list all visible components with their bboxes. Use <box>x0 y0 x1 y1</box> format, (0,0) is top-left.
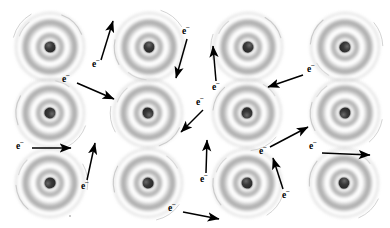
electron-label: e− <box>282 191 290 201</box>
electron-motion-arrow <box>273 158 283 189</box>
electron-label: e− <box>168 204 176 214</box>
electron-charge-sign: − <box>20 139 24 147</box>
electron-motion-arrow <box>77 83 114 99</box>
electron-label: e− <box>92 60 100 70</box>
electron-motion-arrow <box>176 39 187 78</box>
electron-label: e− <box>196 98 204 108</box>
electron-motion-arrow <box>101 21 113 60</box>
electron-label: e− <box>81 182 89 192</box>
electron-label: e− <box>16 142 24 152</box>
electron-charge-sign: − <box>313 139 317 147</box>
stray-speck <box>69 215 71 217</box>
electron-label: e− <box>212 83 220 93</box>
electron-sea-diagram: e−e−e−e−e−e−e−e−e−e−e−e−e− <box>0 0 390 228</box>
electron-motion-arrow <box>183 212 219 219</box>
electron-motion-arrow <box>322 153 370 155</box>
electron-charge-sign: − <box>311 62 315 70</box>
electron-charge-sign: − <box>200 95 204 103</box>
electron-label: e− <box>200 175 208 185</box>
electron-charge-sign: − <box>286 188 290 196</box>
electron-motion-arrow <box>270 127 308 147</box>
electron-motion-arrow <box>268 75 303 87</box>
electron-motion-arrows <box>0 0 390 228</box>
electron-charge-sign: − <box>204 172 208 180</box>
electron-charge-sign: − <box>66 72 70 80</box>
electron-charge-sign: − <box>216 80 220 88</box>
electron-charge-sign: − <box>186 24 190 32</box>
electron-label: e− <box>62 75 70 85</box>
electron-motion-arrow <box>206 140 207 173</box>
electron-motion-arrow <box>181 110 203 132</box>
electron-label: e− <box>309 142 317 152</box>
electron-charge-sign: − <box>263 144 267 152</box>
electron-charge-sign: − <box>85 179 89 187</box>
electron-charge-sign: − <box>172 201 176 209</box>
electron-label: e− <box>259 147 267 157</box>
electron-motion-arrow <box>213 46 216 81</box>
electron-charge-sign: − <box>96 57 100 65</box>
electron-label: e− <box>182 27 190 37</box>
electron-label: e− <box>307 65 315 75</box>
electron-motion-arrow <box>87 143 95 180</box>
